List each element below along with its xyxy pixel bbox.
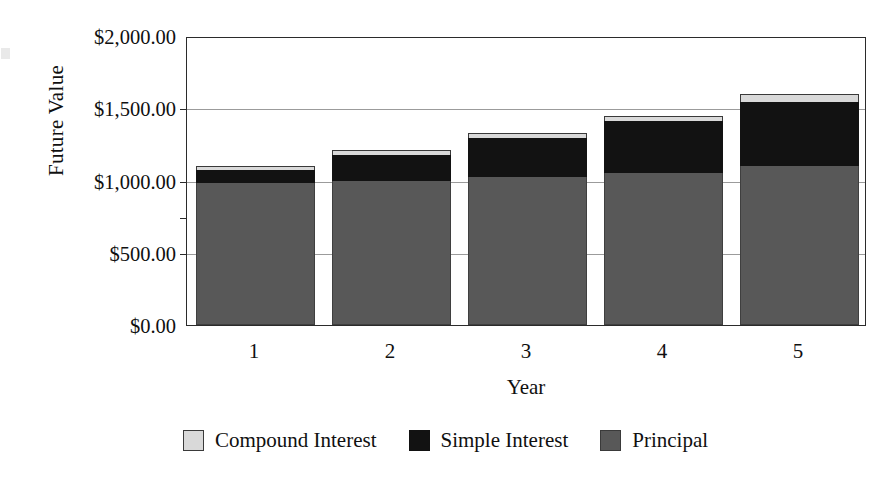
bar-year-5[interactable]	[740, 94, 859, 325]
y-tick-label-0: $0.00	[24, 316, 176, 336]
legend-label-principal: Principal	[632, 430, 708, 451]
x-tick-label-4: 4	[594, 336, 730, 366]
legend-label-compound-interest: Compound Interest	[215, 430, 377, 451]
bar-year-5-simple-interest	[740, 102, 859, 166]
legend-swatch-simple-interest	[409, 430, 430, 451]
chart-figure: Future Value $2,000.00 $1,500.00 $1,000.…	[0, 0, 891, 488]
bar-year-2[interactable]	[332, 150, 451, 325]
chart-legend: Compound Interest Simple Interest Princi…	[0, 430, 891, 451]
x-tick-label-2: 2	[322, 336, 458, 366]
y-tick-label-2000: $2,000.00	[24, 27, 176, 47]
legend-item-principal[interactable]: Principal	[600, 430, 708, 451]
legend-item-compound-interest[interactable]: Compound Interest	[183, 430, 377, 451]
bar-year-1[interactable]	[196, 166, 315, 325]
x-tick-label-1: 1	[186, 336, 322, 366]
bar-year-3[interactable]	[468, 133, 587, 325]
bar-year-2-simple-interest	[332, 155, 451, 181]
legend-item-simple-interest[interactable]: Simple Interest	[409, 430, 569, 451]
legend-label-simple-interest: Simple Interest	[441, 430, 569, 451]
bar-year-1-principal	[196, 183, 315, 325]
bar-year-1-simple-interest	[196, 170, 315, 183]
legend-swatch-compound-interest	[183, 430, 204, 451]
plot-area	[186, 37, 866, 326]
y-tick-label-1000: $1,000.00	[24, 172, 176, 192]
bar-year-4-principal	[604, 173, 723, 325]
bar-year-3-principal	[468, 177, 587, 325]
y-axis-tick-labels: $2,000.00 $1,500.00 $1,000.00 $500.00 $0…	[24, 0, 176, 488]
bar-year-3-simple-interest	[468, 138, 587, 177]
bar-year-5-compound-interest	[740, 94, 859, 102]
y-tick-1000	[180, 182, 187, 183]
x-axis-title: Year	[186, 375, 866, 400]
legend-swatch-principal	[600, 430, 621, 451]
bar-group	[187, 38, 865, 325]
bar-year-4-simple-interest	[604, 121, 723, 173]
y-tick-minor-750	[180, 218, 187, 219]
x-axis-tick-labels: 1 2 3 4 5	[186, 336, 866, 370]
x-tick-label-5: 5	[730, 336, 866, 366]
scan-artifact	[1, 48, 10, 59]
x-tick-label-3: 3	[458, 336, 594, 366]
bar-year-2-principal	[332, 181, 451, 325]
bar-year-4[interactable]	[604, 116, 723, 325]
bar-year-5-principal	[740, 166, 859, 325]
y-tick-500	[180, 254, 187, 255]
y-tick-1500	[180, 109, 187, 110]
y-tick-label-1500: $1,500.00	[24, 99, 176, 119]
y-tick-label-500: $500.00	[24, 244, 176, 264]
